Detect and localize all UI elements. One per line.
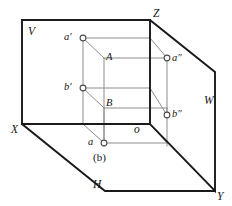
point-label-a-double-prime: a" (172, 53, 182, 64)
box-edge-top-right (150, 38, 167, 58)
axis-label-Z: Z (153, 8, 159, 20)
point-label-b-double-prime: b" (172, 109, 182, 120)
plane-label-V: V (28, 26, 35, 38)
point-label-a: a (88, 137, 93, 148)
h-plane-outline (22, 124, 215, 191)
space-point-label-B: B (106, 98, 112, 109)
plane-label-W: W (204, 95, 214, 107)
depth-edge-a-to-floor (83, 124, 104, 143)
vertex-a-double-prime[interactable] (164, 55, 170, 61)
figure-caption: (b) (93, 152, 106, 163)
vertex-a[interactable] (101, 140, 107, 146)
axis-label-X: X (11, 124, 18, 136)
box-edge-mid-right (150, 88, 167, 115)
origin-label-o: o (134, 124, 140, 136)
vertex-b-double-prime[interactable] (164, 112, 170, 118)
figure-container: V H W X Y Z o a' b' a" b" a A B (b) (0, 0, 232, 206)
vertex-a-prime[interactable] (80, 35, 86, 41)
point-label-a-prime: a' (64, 32, 72, 43)
point-label-b-prime: b' (64, 82, 72, 93)
depth-edge-b-prime-to-B (83, 88, 104, 108)
plane-label-H: H (93, 179, 101, 191)
plane-boundaries (22, 20, 215, 191)
axis-label-Y: Y (217, 191, 223, 203)
depth-edge-a-prime-to-A (83, 38, 104, 58)
space-point-label-A: A (106, 52, 112, 63)
vertex-b-prime[interactable] (80, 85, 86, 91)
